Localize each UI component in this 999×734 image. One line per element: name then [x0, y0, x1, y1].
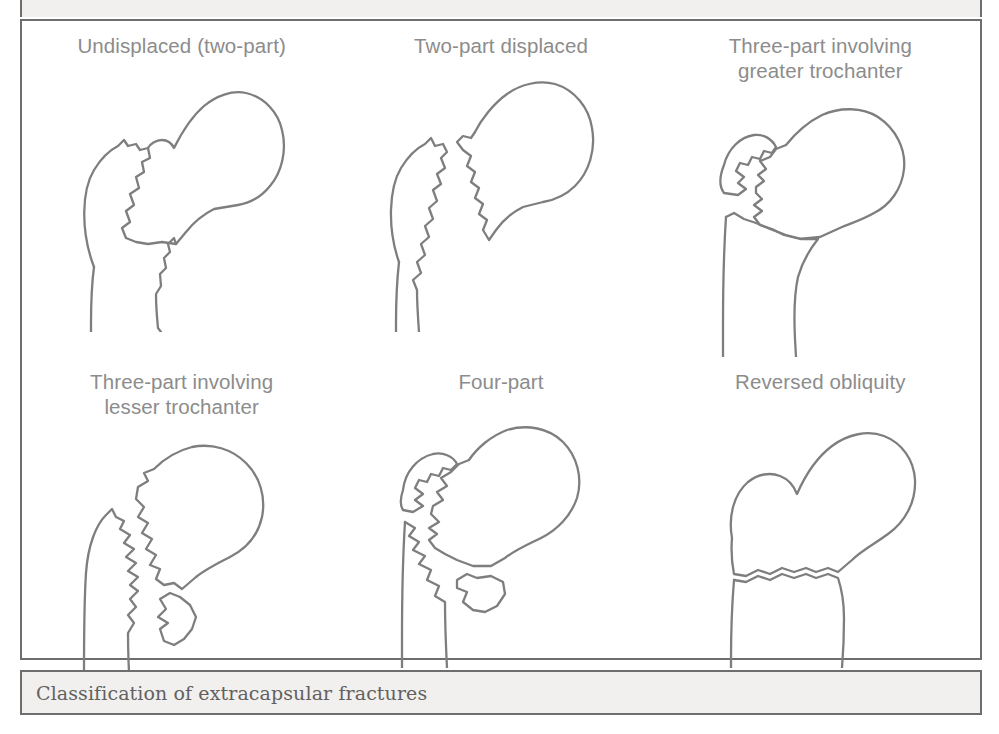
- femur-reversed-obliquity-icon: [661, 398, 980, 693]
- femur-undisplaced-two-part-icon: [22, 62, 341, 357]
- femur-four-part-icon: [341, 398, 660, 693]
- figure-cell-three-part-lesser-trochanter: Three-part involving lesser trochanter: [22, 357, 341, 693]
- figure-cell-reversed-obliquity: Reversed obliquity: [661, 357, 980, 693]
- figure-caption-band: Classification of extracapsular fracture…: [20, 670, 982, 715]
- figure-cell-undisplaced-two-part: Undisplaced (two-part): [22, 21, 341, 357]
- femur-three-part-lesser-trochanter-icon: [22, 423, 341, 693]
- figure-caption-text: Classification of extracapsular fracture…: [22, 682, 427, 704]
- femur-three-part-greater-trochanter-icon: [661, 87, 980, 357]
- figure-cell-label: Two-part displaced: [414, 33, 588, 58]
- figure-cell-label: Reversed obliquity: [735, 369, 905, 394]
- truncated-panel-text: [102, 1, 222, 13]
- figure-cell-two-part-displaced: Two-part displaced: [341, 21, 660, 357]
- figure-cell-label: Three-part involving lesser trochanter: [90, 369, 273, 419]
- figure-cell-three-part-greater-trochanter: Three-part involving greater trochanter: [661, 21, 980, 357]
- figure-cell-label: Undisplaced (two-part): [77, 33, 285, 58]
- figure-cell-four-part: Four-part: [341, 357, 660, 693]
- figure-cell-label: Three-part involving greater trochanter: [729, 33, 912, 83]
- truncated-panel-above: [20, 0, 982, 17]
- figure-cell-label: Four-part: [458, 369, 543, 394]
- figure-panel: Undisplaced (two-part) Two-part displace…: [20, 19, 982, 660]
- femur-two-part-displaced-icon: [341, 62, 660, 357]
- figure-grid: Undisplaced (two-part) Two-part displace…: [22, 21, 980, 658]
